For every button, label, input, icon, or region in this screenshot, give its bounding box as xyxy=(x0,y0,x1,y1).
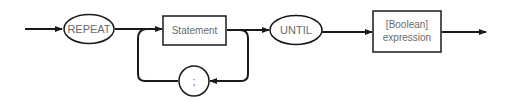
statement-label: Statement xyxy=(172,25,218,36)
until-node: UNTIL xyxy=(270,16,322,45)
repeat-label: REPEAT xyxy=(67,23,110,35)
repeat-node: REPEAT xyxy=(64,15,114,44)
separator-node: ; xyxy=(179,66,209,96)
until-label: UNTIL xyxy=(280,24,312,36)
boolean-label-line1: [Boolean] xyxy=(386,19,428,30)
repeat-until-syntax-diagram: REPEAT Statement ; UNTIL [Boolean] expre… xyxy=(0,0,506,102)
boolean-label-line2: expression xyxy=(383,32,431,43)
separator-label: ; xyxy=(192,75,195,87)
boolean-expression-node: [Boolean] expression xyxy=(373,11,441,52)
statement-node: Statement xyxy=(163,16,226,45)
